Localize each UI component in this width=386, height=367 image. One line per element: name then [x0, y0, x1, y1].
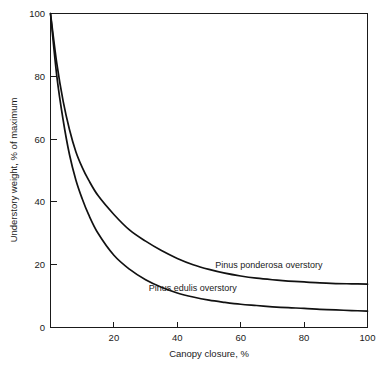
x-tick-labels: 20 40 60 80 100 [109, 332, 376, 343]
y-tick-labels: 0 20 40 60 80 100 [29, 8, 45, 333]
chart-figure: 0 20 40 60 80 100 20 40 60 80 100 Canopy… [0, 0, 386, 367]
x-tick-label-80: 80 [299, 332, 310, 343]
understory-weight-canopy-closure-chart: 0 20 40 60 80 100 20 40 60 80 100 Canopy… [0, 0, 386, 367]
x-tick-label-20: 20 [109, 332, 120, 343]
y-tick-label-20: 20 [34, 259, 45, 270]
y-tick-label-60: 60 [34, 134, 45, 145]
x-tick-label-60: 60 [235, 332, 246, 343]
x-tick-label-100: 100 [360, 332, 376, 343]
x-axis-title: Canopy closure, % [169, 348, 249, 359]
series-labels: Pinus ponderosa overstory Pinus edulis o… [149, 260, 323, 294]
series-label-pinus-ponderosa: Pinus ponderosa overstory [215, 260, 323, 270]
x-axis-ticks [114, 322, 368, 328]
y-tick-label-40: 40 [34, 196, 45, 207]
series-label-pinus-edulis: Pinus edulis overstory [149, 283, 238, 293]
y-tick-label-100: 100 [29, 8, 45, 19]
x-tick-label-40: 40 [172, 332, 183, 343]
axis-frame [51, 14, 368, 328]
curve-pinus-ponderosa [51, 14, 368, 285]
y-tick-label-0: 0 [40, 322, 45, 333]
y-axis-title: Understory weight, % of maximum [8, 98, 19, 243]
y-tick-label-80: 80 [34, 71, 45, 82]
